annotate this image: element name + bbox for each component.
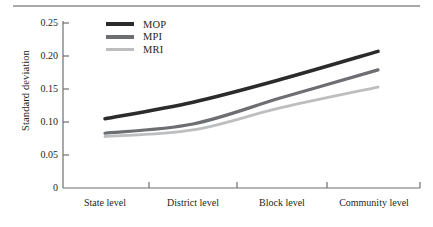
- legend-swatch-mpi: [106, 35, 134, 39]
- x-tick-label-block-level: Block level: [242, 197, 322, 208]
- x-tick-marks: [149, 182, 420, 188]
- legend-item-mri: MRI: [106, 43, 166, 56]
- plot-area: [0, 0, 433, 227]
- series-line-mpi: [105, 70, 378, 133]
- x-tick-label-community-level: Community level: [328, 197, 420, 208]
- legend-item-mop: MOP: [106, 18, 166, 31]
- y-tick-marks: [63, 23, 69, 155]
- legend-label-mpi: MPI: [143, 31, 162, 42]
- chart-figure: Standard deviation 0.25 0.20 0.15 0.10 0…: [0, 0, 433, 227]
- legend-item-mpi: MPI: [106, 31, 166, 44]
- legend-label-mop: MOP: [143, 19, 166, 30]
- x-tick-label-state-level: State level: [65, 197, 145, 208]
- series-line-mop: [105, 51, 378, 118]
- legend-swatch-mri: [106, 48, 134, 51]
- legend-swatch-mop: [106, 22, 134, 26]
- legend-label-mri: MRI: [143, 44, 163, 55]
- series-layer: [105, 51, 378, 136]
- x-tick-label-district-level: District level: [153, 197, 233, 208]
- legend: MOP MPI MRI: [106, 18, 166, 56]
